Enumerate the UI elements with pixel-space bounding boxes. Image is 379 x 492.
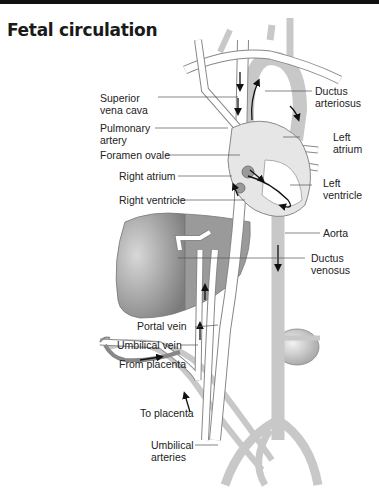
label-line: Ductus xyxy=(315,85,361,97)
label-umbilical-vein: Umbilical vein xyxy=(117,339,182,351)
label-right-ventricle: Right ventricle xyxy=(119,194,186,206)
label-portal-vein: Portal vein xyxy=(137,320,187,332)
label-line: Left xyxy=(323,177,362,189)
label-aorta: Aorta xyxy=(323,227,348,239)
label-from-placenta: From placenta xyxy=(119,358,186,370)
label-line: Left xyxy=(333,131,362,143)
label-line: ventricle xyxy=(323,189,362,201)
label-line: atrium xyxy=(333,143,362,155)
label-line: venosus xyxy=(311,264,350,276)
label-umbilical-arteries: Umbilical arteries xyxy=(151,439,194,463)
label-line: Superior xyxy=(100,92,148,104)
label-line: artery xyxy=(100,134,150,146)
label-left-atrium: Left atrium xyxy=(333,131,362,155)
label-line: Pulmonary xyxy=(100,122,150,134)
label-line: Umbilical xyxy=(151,439,194,451)
label-line: Ductus xyxy=(311,252,350,264)
label-ductus-arteriosus: Ductus arteriosus xyxy=(315,85,361,109)
label-left-ventricle: Left ventricle xyxy=(323,177,362,201)
label-to-placenta: To placenta xyxy=(140,407,194,419)
label-ductus-venosus: Ductus venosus xyxy=(311,252,350,276)
label-line: arteries xyxy=(151,451,194,463)
label-superior-vena-cava: Superior vena cava xyxy=(100,92,148,116)
label-line: vena cava xyxy=(100,104,148,116)
label-line: arteriosus xyxy=(315,97,361,109)
label-pulmonary-artery: Pulmonary artery xyxy=(100,122,150,146)
label-foramen-ovale: Foramen ovale xyxy=(100,149,170,161)
label-right-atrium: Right atrium xyxy=(119,170,176,182)
